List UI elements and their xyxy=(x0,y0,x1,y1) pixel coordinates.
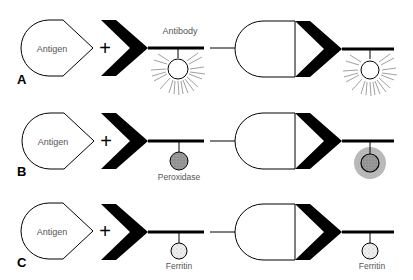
ferritin-label: Ferritin xyxy=(166,261,193,271)
row-a: Antigen A + Antibody xyxy=(17,20,397,96)
peroxidase-marker-b xyxy=(170,152,188,170)
antibody-c xyxy=(101,204,204,260)
fluorescent-marker-a-result xyxy=(343,54,397,96)
labeling-diagram: Antigen A + Antibody xyxy=(0,0,413,280)
row-label-a: A xyxy=(17,72,27,87)
antigen-label-c: Antigen xyxy=(37,227,68,237)
row-label-b: B xyxy=(17,164,26,179)
peroxidase-stain-b-result xyxy=(354,142,386,179)
plus-sign-b: + xyxy=(100,130,112,152)
antibody-b xyxy=(101,113,204,169)
plus-sign-a: + xyxy=(99,37,111,59)
ferritin-marker-c-result xyxy=(362,243,378,259)
fluorescent-marker-a xyxy=(151,53,205,95)
plus-sign-c: + xyxy=(99,220,111,242)
row-label-c: C xyxy=(17,255,27,270)
ferritin-label-result: Ferritin xyxy=(359,261,386,271)
ferritin-marker-c xyxy=(171,243,187,259)
peroxidase-label: Peroxidase xyxy=(158,172,201,182)
row-b: Antigen B + Peroxidase xyxy=(17,113,394,182)
antigen-label-b: Antigen xyxy=(38,137,69,147)
antibody-label: Antibody xyxy=(162,26,198,36)
row-c: Antigen C + Ferritin Ferritin xyxy=(17,203,394,271)
antigen-label-a: Antigen xyxy=(37,44,68,54)
